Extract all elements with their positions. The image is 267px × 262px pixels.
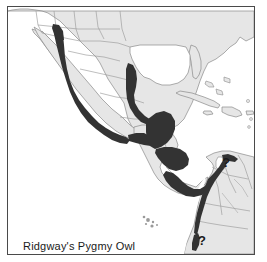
map-caption: Ridgway's Pygmy Owl [23,240,135,252]
map-frame: ? ? Ridgway's Pygmy Owl [7,6,255,255]
map-canvas: ? ? [8,7,254,254]
island-puerto-rico [246,111,254,115]
island-antilles-dot-3 [248,126,251,129]
range-map-figure: ? ? Ridgway's Pygmy Owl [0,0,267,262]
island-antilles-dot-2 [250,118,253,121]
island-antilles-dot-1 [246,99,249,102]
uncertain-range-marker-ecuador: ? [198,233,206,248]
uncertain-range-marker-venezuela: ? [222,155,230,170]
